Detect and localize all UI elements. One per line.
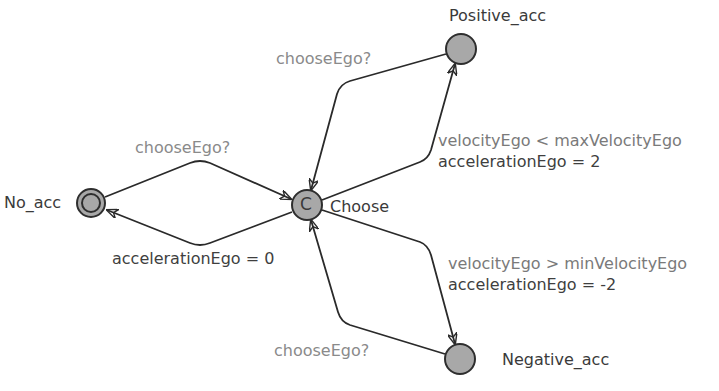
location-label-no-acc: No_acc xyxy=(4,193,61,212)
edge-choose-to-no-acc[interactable] xyxy=(107,210,292,245)
edge-choose-to-negative[interactable] xyxy=(322,210,455,344)
sync-label-no-acc-to-choose: chooseEgo? xyxy=(135,138,230,157)
edge-no-acc-to-choose[interactable] xyxy=(105,161,291,199)
location-negative-acc[interactable] xyxy=(445,344,475,374)
update-label-choose-to-no-acc: accelerationEgo = 0 xyxy=(112,249,274,268)
location-label-choose: Choose xyxy=(330,197,389,216)
update-label-choose-to-negative: accelerationEgo = -2 xyxy=(448,275,616,294)
committed-marker: C xyxy=(300,195,312,214)
sync-label-negative-to-choose: chooseEgo? xyxy=(274,341,369,360)
guard-label-choose-to-negative: velocityEgo > minVelocityEgo xyxy=(448,254,687,273)
guard-label-choose-to-positive: velocityEgo < maxVelocityEgo xyxy=(438,131,682,150)
update-label-choose-to-positive: accelerationEgo = 2 xyxy=(438,152,600,171)
location-label-positive-acc: Positive_acc xyxy=(449,6,546,25)
location-label-negative-acc: Negative_acc xyxy=(502,350,609,369)
sync-label-positive-to-choose: chooseEgo? xyxy=(276,49,371,68)
edge-negative-to-choose[interactable] xyxy=(311,220,445,354)
location-no-acc[interactable] xyxy=(77,189,105,217)
edge-positive-to-choose[interactable] xyxy=(311,54,446,190)
location-positive-acc[interactable] xyxy=(446,34,476,64)
